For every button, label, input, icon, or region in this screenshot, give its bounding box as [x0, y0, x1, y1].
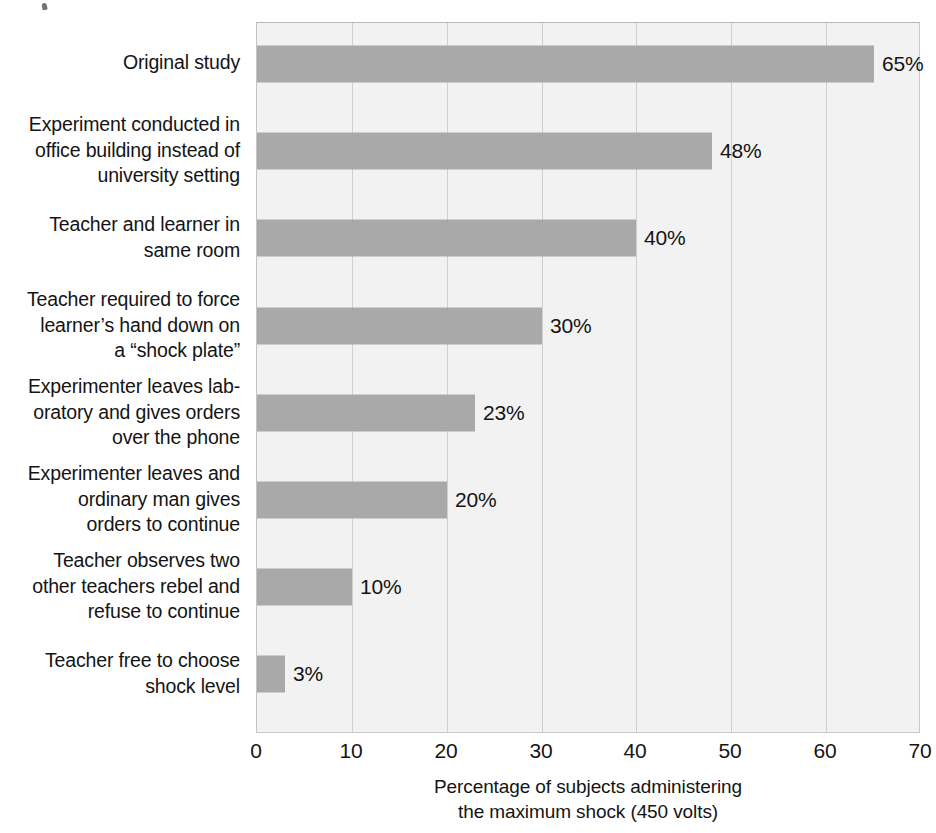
category-label: Teacher free to chooseshock level [0, 648, 240, 699]
category-label-line: university setting [0, 163, 240, 189]
x-tick-label: 10 [340, 739, 363, 763]
category-label-line: over the phone [0, 425, 240, 451]
category-label-line: ordinary man gives [0, 486, 240, 512]
x-tick-label: 40 [624, 739, 647, 763]
x-tick-label: 70 [909, 739, 932, 763]
category-label-line: Teacher observes two [0, 548, 240, 574]
category-label-line: refuse to continue [0, 599, 240, 625]
bar-value-label: 20% [455, 489, 496, 510]
category-label-line: Experimenter leaves lab- [0, 374, 240, 400]
category-label-line: a “shock plate” [0, 338, 240, 364]
category-label-line: Teacher free to choose [0, 648, 240, 674]
category-label-line: Teacher required to force [0, 287, 240, 313]
category-label-line: learner’s hand down on [0, 312, 240, 338]
category-label-line: same room [0, 237, 240, 263]
category-label-line: Original study [0, 50, 240, 76]
category-label-line: office building instead of [0, 137, 240, 163]
category-label: Experimenter leaves andordinary man give… [0, 461, 240, 538]
category-label-line: Experiment conducted in [0, 112, 240, 138]
category-label: Teacher required to forcelearner’s hand … [0, 287, 240, 364]
scan-artifact-speck [41, 3, 47, 11]
x-axis-tick-labels: 010203040506070 [256, 733, 920, 773]
category-label-line: other teachers rebel and [0, 573, 240, 599]
category-label: Original study [0, 50, 240, 76]
bar-value-label: 40% [644, 227, 685, 248]
category-label: Experimenter leaves lab-oratory and give… [0, 374, 240, 451]
bar-value-label: 23% [483, 402, 524, 423]
category-label-line: shock level [0, 673, 240, 699]
category-label: Experiment conducted inoffice building i… [0, 112, 240, 189]
value-label-layer: 65%48%40%30%23%20%10%3% [256, 22, 936, 733]
category-label: Teacher and learner insame room [0, 212, 240, 263]
bar-value-label: 3% [293, 663, 323, 684]
bar-value-label: 65% [882, 53, 923, 74]
x-tick-label: 0 [250, 739, 261, 763]
x-tick-label: 20 [435, 739, 458, 763]
category-label-column: Original studyExperiment conducted inoff… [0, 22, 248, 733]
x-axis-title-line: the maximum shock (450 volts) [256, 800, 920, 825]
category-label-line: orders to continue [0, 512, 240, 538]
bar-value-label: 10% [360, 576, 401, 597]
x-tick-label: 60 [814, 739, 837, 763]
bar-value-label: 30% [550, 315, 591, 336]
x-tick-label: 30 [530, 739, 553, 763]
bar-value-label: 48% [720, 140, 761, 161]
milgram-obedience-bar-chart: Original studyExperiment conducted inoff… [0, 0, 936, 833]
x-axis-title: Percentage of subjects administeringthe … [256, 775, 920, 824]
category-label-line: Teacher and learner in [0, 212, 240, 238]
category-label-line: Experimenter leaves and [0, 461, 240, 487]
category-label-line: oratory and gives orders [0, 399, 240, 425]
x-tick-label: 50 [719, 739, 742, 763]
category-label: Teacher observes twoother teachers rebel… [0, 548, 240, 625]
x-axis-title-line: Percentage of subjects administering [256, 775, 920, 800]
